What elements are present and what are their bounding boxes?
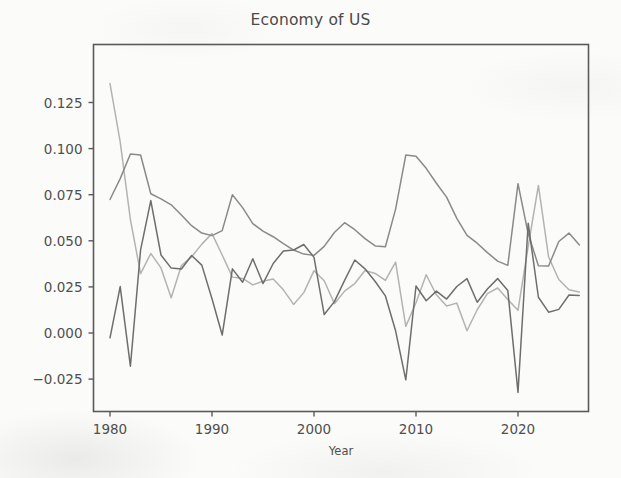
x-tick-label: 1990 xyxy=(195,421,229,437)
y-axis-ticks: 0.1250.1000.0750.0500.0250.000−0.025 xyxy=(33,95,94,388)
data-line-series-medium-gray xyxy=(110,154,579,266)
chart-screenshot: Economy of US 0.1250.1000.0750.0500.0250… xyxy=(0,0,621,478)
x-tick-label: 2020 xyxy=(501,421,535,437)
y-tick-label: 0.075 xyxy=(44,187,83,203)
data-series-group xyxy=(110,84,579,393)
x-tick-label: 1980 xyxy=(93,421,127,437)
x-axis-label: Year xyxy=(328,444,354,458)
data-line-series-dark-gray xyxy=(110,201,579,393)
y-tick-label: 0.100 xyxy=(44,141,83,157)
y-tick-label: 0.050 xyxy=(44,233,83,249)
x-tick-label: 2000 xyxy=(297,421,331,437)
y-tick-label: 0.025 xyxy=(44,279,83,295)
y-tick-label: 0.125 xyxy=(44,95,83,111)
chart-plot-area: 0.1250.1000.0750.0500.0250.000−0.025 198… xyxy=(0,0,621,478)
x-tick-label: 2010 xyxy=(399,421,433,437)
y-tick-label: 0.000 xyxy=(44,325,83,341)
y-tick-label: −0.025 xyxy=(33,371,83,387)
x-axis-ticks: 19801990200020102020 xyxy=(93,412,535,437)
